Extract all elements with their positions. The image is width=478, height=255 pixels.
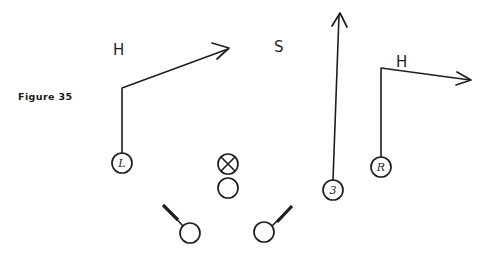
defender-label-h-left: H <box>113 41 124 59</box>
player-center-back <box>218 178 238 198</box>
player-right-end-label: R <box>376 161 385 174</box>
route-left-end-path <box>122 49 228 153</box>
center-ball-x-icon <box>221 157 235 171</box>
center-back-circle-icon <box>218 178 238 198</box>
player-left-guard <box>163 205 200 243</box>
player-left-end-label: L <box>117 157 125 170</box>
route-back-three-path <box>333 15 339 180</box>
right-guard-circle-icon <box>254 222 274 242</box>
play-diagram-canvas: Figure 35 H S H L <box>0 0 478 255</box>
route-right-end <box>381 68 471 157</box>
player-back-three-label: 3 <box>330 184 337 197</box>
right-guard-block-bar-icon <box>277 206 292 222</box>
player-right-end: R <box>371 157 391 177</box>
route-back-three <box>332 13 347 180</box>
football-play-diagram: Figure 35 H S H L <box>0 0 478 255</box>
player-left-end: L <box>112 153 132 173</box>
figure-caption: Figure 35 <box>18 91 73 102</box>
player-center-ball <box>218 154 238 174</box>
player-right-guard <box>254 206 292 242</box>
player-back-three: 3 <box>323 180 343 200</box>
route-right-end-path <box>381 68 470 157</box>
defender-label-s: S <box>274 38 284 56</box>
route-left-end <box>122 43 229 153</box>
left-guard-block-bar-icon <box>163 205 178 220</box>
defender-label-h-right: H <box>396 53 407 71</box>
